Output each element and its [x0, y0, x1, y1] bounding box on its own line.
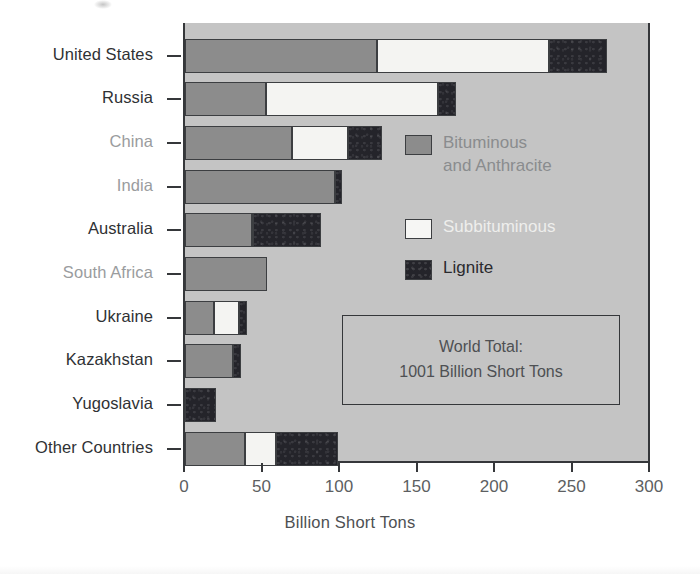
y-axis-label-india: India [0, 176, 153, 195]
x-axis-tick-label: 250 [557, 477, 585, 497]
scan-artifact-bottom [0, 566, 700, 574]
world-total-line1: World Total: [343, 335, 619, 360]
x-axis-tick-label: 300 [635, 477, 663, 497]
x-axis-tick-label: 200 [480, 477, 508, 497]
world-total-line2: 1001 Billion Short Tons [343, 360, 619, 385]
y-axis-tick [167, 273, 181, 275]
x-axis-tick [261, 463, 263, 472]
legend-label-line1: Lignite [443, 257, 493, 280]
coal-reserves-stacked-bar-chart: United StatesRussiaChinaIndiaAustraliaSo… [0, 0, 700, 574]
y-axis-tick [167, 229, 181, 231]
y-axis-tick [167, 186, 181, 188]
legend-swatch-lignite [405, 260, 432, 280]
legend-label-line1: Subbituminous [443, 216, 555, 239]
x-axis-tick-label: 150 [402, 477, 430, 497]
y-axis-label-united-states: United States [0, 45, 153, 64]
y-axis-tick [167, 360, 181, 362]
world-total-box: World Total: 1001 Billion Short Tons [342, 315, 620, 405]
y-axis-label-australia: Australia [0, 219, 153, 238]
legend-label-bituminous: Bituminousand Anthracite [443, 132, 552, 178]
x-axis-title: Billion Short Tons [0, 513, 700, 532]
y-axis-label-russia: Russia [0, 88, 153, 107]
y-axis-label-other-countries: Other Countries [0, 438, 153, 457]
x-axis-tick [571, 463, 573, 472]
y-axis-label-ukraine: Ukraine [0, 307, 153, 326]
legend-label-line1: Bituminous [443, 132, 552, 155]
x-axis-tick-label: 50 [252, 477, 271, 497]
y-axis-tick [167, 317, 181, 319]
world-total-text: World Total: 1001 Billion Short Tons [343, 335, 619, 385]
x-axis-tick-label: 0 [179, 477, 188, 497]
y-axis-tick [167, 55, 181, 57]
y-axis-label-kazakhstan: Kazakhstan [0, 350, 153, 369]
legend-swatch-bituminous [405, 135, 432, 155]
y-axis-tick [167, 448, 181, 450]
legend-label-subbituminous: Subbituminous [443, 216, 555, 239]
x-axis-tick [183, 463, 185, 472]
y-axis-tick [167, 404, 181, 406]
y-axis-label-china: China [0, 132, 153, 151]
legend-swatch-subbituminous [405, 219, 432, 239]
x-axis-tick [648, 463, 650, 472]
x-axis-tick [338, 463, 340, 472]
x-axis-tick-label: 100 [325, 477, 353, 497]
legend-label-lignite: Lignite [443, 257, 493, 280]
y-axis-tick [167, 98, 181, 100]
x-axis-tick [416, 463, 418, 472]
legend-label-line2: and Anthracite [443, 155, 552, 178]
x-axis-tick [493, 463, 495, 472]
y-axis-tick [167, 142, 181, 144]
y-axis-label-yugoslavia: Yugoslavia [0, 394, 153, 413]
y-axis-label-south-africa: South Africa [0, 263, 153, 282]
scan-artifact-top [94, 0, 112, 9]
plot-area: Bituminousand AnthraciteSubbituminousLig… [183, 23, 650, 463]
